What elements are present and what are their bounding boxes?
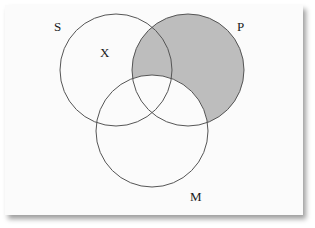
venn-diagram: S P M X bbox=[0, 0, 315, 228]
label-m: M bbox=[190, 189, 202, 204]
label-s: S bbox=[54, 19, 61, 34]
label-p: P bbox=[237, 19, 244, 34]
mark-x: X bbox=[100, 45, 110, 60]
shaded-region bbox=[0, 0, 315, 228]
